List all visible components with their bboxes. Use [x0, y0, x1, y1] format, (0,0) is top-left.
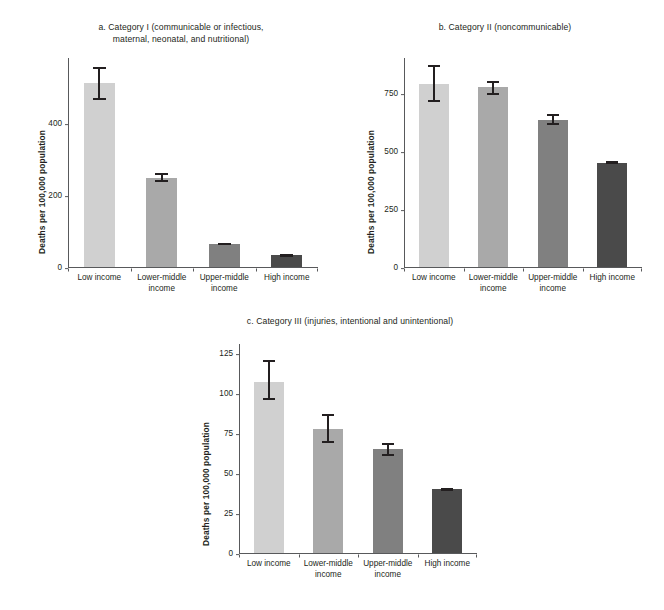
panel-b-ytick-750: 750 [384, 90, 404, 98]
bar-b-2 [538, 120, 568, 267]
panel-c-xlabel-0: Low income [239, 559, 299, 570]
panel-c-plot-area: 0255075100125Low incomeLower-middle inco… [239, 344, 477, 554]
error-bar-a-2 [218, 243, 231, 245]
panel-c-ytick-25: 25 [224, 510, 239, 518]
figure-root: a. Category I (communicable or infectiou… [0, 0, 664, 610]
panel-c-xtick-0 [239, 554, 240, 558]
panel-c-xtick-2 [358, 554, 359, 558]
panel-c-xlabel-3: High income [418, 559, 478, 570]
panel-b-ytick-0: 0 [393, 264, 404, 272]
panel-a-xtick-3 [256, 268, 257, 272]
panel-a-xtick-1 [131, 268, 132, 272]
panel-a-xlabel-3: High income [256, 273, 319, 284]
panel-b-xtick-1 [464, 268, 465, 272]
bar-c-1 [313, 429, 343, 553]
panel-c-xlabel-1: Lower-middle income [299, 559, 359, 580]
panel-c-ytick-100: 100 [219, 390, 239, 398]
panel-b-xtick-0 [404, 268, 405, 272]
panel-c-xlabel-2: Upper-middle income [358, 559, 418, 580]
panel-b-xlabel-1: Lower-middle income [464, 273, 524, 294]
panel-a-title: a. Category I (communicable or infectiou… [26, 22, 336, 45]
error-bar-a-1 [155, 173, 168, 182]
panel-a: a. Category I (communicable or infectiou… [26, 22, 336, 322]
error-bar-c-0 [263, 360, 275, 400]
panel-b-y-axis-label: Deaths per 100,000 population [366, 130, 376, 254]
panel-b-xtick-3 [583, 268, 584, 272]
error-bar-b-0 [428, 65, 440, 101]
bar-a-0 [84, 83, 115, 267]
error-bar-b-3 [606, 161, 618, 164]
error-bar-b-2 [547, 114, 559, 125]
panel-a-plot-area: 0200400Low incomeLower-middle incomeUppe… [68, 58, 318, 268]
panel-a-xlabel-2: Upper-middle income [193, 273, 256, 294]
error-bar-a-3 [280, 254, 293, 256]
panel-a-xlabel-1: Lower-middle income [131, 273, 194, 294]
panel-a-xtick-0 [68, 268, 69, 272]
panel-c-ytick-0: 0 [228, 550, 239, 558]
panel-b-title: b. Category II (noncommunicable) [355, 22, 655, 34]
panel-b: b. Category II (noncommunicable) Deaths … [355, 22, 655, 322]
panel-a-y-axis [68, 58, 69, 268]
panel-b-xlabel-0: Low income [404, 273, 464, 284]
panel-b-xtick-end [641, 268, 642, 272]
error-bar-a-0 [93, 67, 106, 100]
panel-c-xtick-3 [418, 554, 419, 558]
bar-b-3 [597, 163, 627, 268]
panel-a-y-axis-label: Deaths per 100,000 population [37, 130, 47, 254]
bar-b-0 [419, 84, 449, 267]
panel-b-xlabel-2: Upper-middle income [523, 273, 583, 294]
panel-c: c. Category III (injuries, intentional a… [190, 316, 510, 606]
bar-a-3 [271, 255, 302, 267]
bar-c-2 [373, 449, 403, 553]
panel-b-ytick-500: 500 [384, 148, 404, 156]
panel-c-y-axis-label: Deaths per 100,000 population [201, 422, 211, 546]
error-bar-b-1 [487, 81, 499, 94]
panel-b-plot-area: 0250500750Low incomeLower-middle incomeU… [404, 58, 642, 268]
panel-c-ytick-75: 75 [224, 430, 239, 438]
panel-b-xtick-2 [523, 268, 524, 272]
panel-c-ytick-50: 50 [224, 470, 239, 478]
panel-b-y-axis [404, 58, 405, 268]
error-bar-c-3 [441, 488, 453, 491]
error-bar-c-1 [322, 414, 334, 443]
panel-a-xlabel-0: Low income [68, 273, 131, 284]
panel-a-xtick-2 [193, 268, 194, 272]
panel-c-ytick-125: 125 [219, 350, 239, 358]
bar-a-1 [146, 178, 177, 267]
panel-a-ytick-0: 0 [57, 264, 68, 272]
panel-b-xlabel-3: High income [583, 273, 643, 284]
panel-b-ytick-250: 250 [384, 206, 404, 214]
panel-c-title: c. Category III (injuries, intentional a… [190, 316, 510, 328]
panel-c-xtick-1 [299, 554, 300, 558]
bar-c-3 [432, 489, 462, 553]
bar-b-1 [478, 87, 508, 267]
panel-c-xtick-end [476, 554, 477, 558]
error-bar-c-2 [382, 443, 394, 456]
panel-a-ytick-400: 400 [48, 120, 68, 128]
panel-a-xtick-end [317, 268, 318, 272]
bar-c-0 [254, 382, 284, 553]
panel-c-y-axis [239, 344, 240, 554]
panel-a-ytick-200: 200 [48, 192, 68, 200]
bar-a-2 [209, 244, 240, 267]
